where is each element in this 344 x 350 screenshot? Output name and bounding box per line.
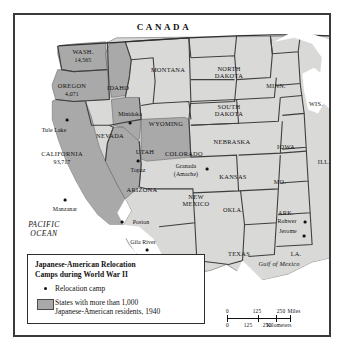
camp-label-gila-river: Gila River (130, 239, 156, 245)
legend-key-states (35, 298, 55, 310)
scale-miles-zero: 0 (226, 308, 229, 314)
label-state-washington: WASH. (72, 49, 93, 56)
label-state-kansas: KANSAS (219, 174, 246, 181)
legend-entry-states: States with more than 1,000 Japanese-Ame… (35, 298, 198, 317)
camp-dot-topaz (137, 160, 140, 163)
camp-label-granada: Granada (176, 163, 197, 169)
label-state-nebraska: NEBRASKA (214, 139, 251, 146)
scale-tick-2 (276, 315, 277, 322)
camp-label-jerome: Jerome (279, 228, 297, 234)
map-frame: .land{fill:#d9d9d7;stroke:#6b6b6b;stroke… (13, 13, 331, 337)
label-state-illinois: ILL. (318, 159, 330, 165)
camp-dot-gila-river (146, 249, 149, 252)
label-population-oregon: 4,071 (65, 91, 79, 97)
label-state-texas: TEXAS (228, 251, 250, 258)
legend-entry-camp: Relocation camp (35, 284, 198, 294)
legend-label-camp: Relocation camp (55, 284, 105, 294)
camp-label-rohwer: Rohwer (277, 218, 296, 224)
camp-label-topaz: Topaz (131, 167, 146, 173)
label-state-nevada: NEVADA (96, 133, 124, 140)
label-population-washington: 14,565 (75, 57, 92, 63)
label-state-louisiana: LA. (291, 251, 302, 257)
highlighted-state-swatch-icon (37, 299, 54, 310)
south-dakota-line2: DAKOTA (215, 110, 243, 117)
camp-label-minidoka: Minidoka (118, 111, 142, 117)
label-gulf-of-mexico: Gulf of Mexico (258, 261, 299, 268)
legend-key-camp (35, 284, 55, 291)
camp-dot-rohwer (304, 221, 307, 224)
label-state-north-dakota: NORTH DAKOTA (215, 65, 243, 79)
scale-kilometers-numbers: 0 125 250 Kilometers (226, 322, 324, 329)
scale-tick-0 (227, 315, 228, 322)
scale-bar: 0 125 250 Miles 0 125 250 Kilometers (226, 308, 324, 329)
label-state-oklahoma: OKLA. (223, 207, 243, 213)
label-state-wisconsin: WIS. (309, 101, 323, 107)
label-state-south-dakota: SOUTH DAKOTA (215, 103, 243, 117)
label-state-arizona: ARIZONA (127, 187, 158, 194)
scale-miles-unit: Miles (288, 308, 301, 314)
label-state-utah: UTAH (136, 149, 154, 156)
label-state-idaho: IDAHO (107, 85, 129, 92)
north-dakota-line1: NORTH (215, 65, 243, 72)
legend-title-line2: Camps during World War II (35, 270, 198, 280)
map-figure: .land{fill:#d9d9d7;stroke:#6b6b6b;stroke… (0, 0, 344, 350)
label-state-wyoming: WYOMING (149, 121, 183, 128)
camp-dot-poston (121, 221, 124, 224)
label-state-montana: MONTANA (151, 67, 185, 74)
label-state-oregon: OREGON (58, 83, 86, 90)
label-state-california: CALIFORNIA (41, 151, 83, 158)
north-dakota-line2: DAKOTA (215, 72, 243, 79)
label-state-new-mexico: NEW MEXICO (182, 193, 209, 207)
legend-states-line1: States with more than 1,000 (55, 298, 160, 308)
label-state-colorado: COLORADO (165, 151, 203, 158)
label-state-iowa: IOWA (277, 144, 295, 151)
label-state-missouri: MO. (274, 179, 286, 185)
camp-label-tule-lake: Tule Lake (42, 127, 67, 133)
scale-km-zero: 0 (226, 322, 229, 328)
camp-dot-manzanar (64, 199, 67, 202)
scale-km-unit: Kilometers (267, 322, 292, 328)
camp-label-granada-alt: (Amache) (174, 171, 198, 177)
new-mexico-line1: NEW (182, 193, 209, 200)
new-mexico-line2: MEXICO (182, 200, 209, 207)
camp-dot-tule-lake (66, 119, 69, 122)
camp-label-poston: Poston (133, 219, 150, 225)
label-population-california: 93,717 (54, 159, 71, 165)
label-state-arkansas: ARK. (278, 210, 294, 216)
scale-miles-max: 250 (277, 308, 285, 314)
south-dakota-line1: SOUTH (215, 103, 243, 110)
relocation-camp-dot-icon (44, 287, 47, 290)
label-pacific-ocean: PACIFIC OCEAN (28, 220, 60, 239)
scale-tick-3 (290, 315, 291, 322)
pacific-ocean-line1: PACIFIC (28, 220, 60, 229)
scale-km-mid: 125 (244, 322, 252, 328)
camp-dot-minidoka (129, 122, 132, 125)
camp-dot-jerome (303, 235, 306, 238)
scale-miles-numbers: 0 125 250 Miles (226, 308, 324, 315)
label-canada: CANADA (137, 23, 192, 32)
legend-title: Japanese-American Relocation Camps durin… (35, 260, 198, 279)
legend-label-states: States with more than 1,000 Japanese-Ame… (55, 298, 160, 317)
scale-bar-graphic (226, 315, 324, 322)
camp-label-manzanar: Manzanar (53, 206, 77, 212)
scale-tick-1 (258, 315, 259, 322)
map-legend: Japanese-American Relocation Camps durin… (27, 254, 205, 324)
scale-miles-mid: 125 (253, 308, 261, 314)
pacific-ocean-line2: OCEAN (28, 229, 60, 238)
camp-dot-granada (206, 168, 209, 171)
legend-title-line1: Japanese-American Relocation (35, 260, 198, 270)
label-state-minnesota: MINN. (266, 83, 286, 89)
legend-states-line2: Japanese-American residents, 1940 (55, 307, 160, 317)
